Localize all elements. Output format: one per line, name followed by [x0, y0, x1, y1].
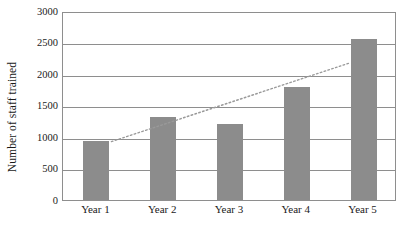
gridline [63, 76, 395, 77]
y-axis-tick-label: 1000 [14, 133, 58, 144]
gridline [63, 44, 395, 45]
x-axis-tick-label: Year 5 [329, 203, 396, 215]
x-axis-tick-label: Year 4 [262, 203, 329, 215]
bar [150, 117, 176, 200]
x-axis-tick-labels: Year 1Year 2Year 3Year 4Year 5 [62, 203, 396, 225]
bar [217, 124, 243, 200]
bar [351, 39, 377, 200]
x-axis-tick-label: Year 3 [196, 203, 263, 215]
plot-area [62, 12, 396, 201]
y-axis-tick-label: 500 [14, 164, 58, 175]
y-axis-tick-label: 1500 [14, 101, 58, 112]
bar [83, 141, 109, 200]
gridline [63, 107, 395, 108]
x-axis-tick-label: Year 1 [62, 203, 129, 215]
bar [284, 87, 310, 200]
bar-chart-figure: Number of staff trained 0500100015002000… [0, 0, 413, 234]
y-axis-tick-label: 2000 [14, 70, 58, 81]
y-axis-tick-label: 0 [14, 196, 58, 207]
x-axis-tick-label: Year 2 [129, 203, 196, 215]
y-axis-tick-label: 2500 [14, 38, 58, 49]
y-axis-tick-label: 3000 [14, 7, 58, 18]
